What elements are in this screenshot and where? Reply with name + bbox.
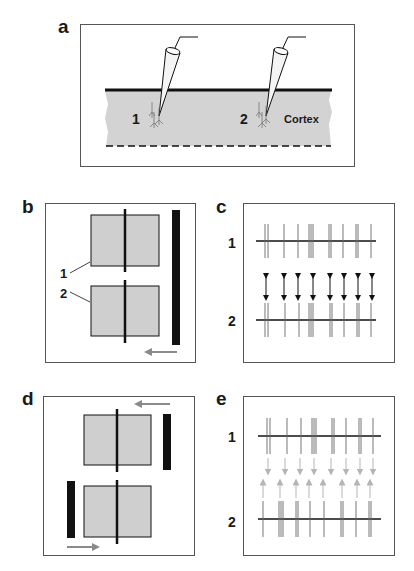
field-label-2: 2 xyxy=(60,286,67,301)
field-label-1: 1 xyxy=(60,266,67,281)
diagram-canvas: 1 2 Cortex 1 2 1 2 xyxy=(0,0,414,571)
electrode-label-1: 1 xyxy=(132,111,140,127)
correlation-arrows xyxy=(266,276,372,298)
spike-train-1 xyxy=(256,224,376,258)
train-label-1: 1 xyxy=(228,235,236,251)
electrode-label-2: 2 xyxy=(240,111,248,127)
spike-train-2 xyxy=(256,303,376,337)
receptive-field-1 xyxy=(91,209,159,272)
train-label-2: 2 xyxy=(228,514,236,530)
short-bar-upper xyxy=(163,414,171,470)
train-label-1: 1 xyxy=(228,429,236,445)
long-moving-bar xyxy=(172,210,180,345)
receptive-field-2 xyxy=(91,280,159,343)
short-bar-lower xyxy=(67,481,75,538)
cortex-label: Cortex xyxy=(284,113,320,125)
train-label-2: 2 xyxy=(228,313,236,329)
downward-arrows xyxy=(268,458,373,472)
upward-arrows xyxy=(263,482,370,498)
receptive-field-1 xyxy=(84,409,151,472)
spike-train-1 xyxy=(258,418,381,454)
spike-train-2 xyxy=(258,501,381,537)
receptive-field-2 xyxy=(84,480,151,544)
